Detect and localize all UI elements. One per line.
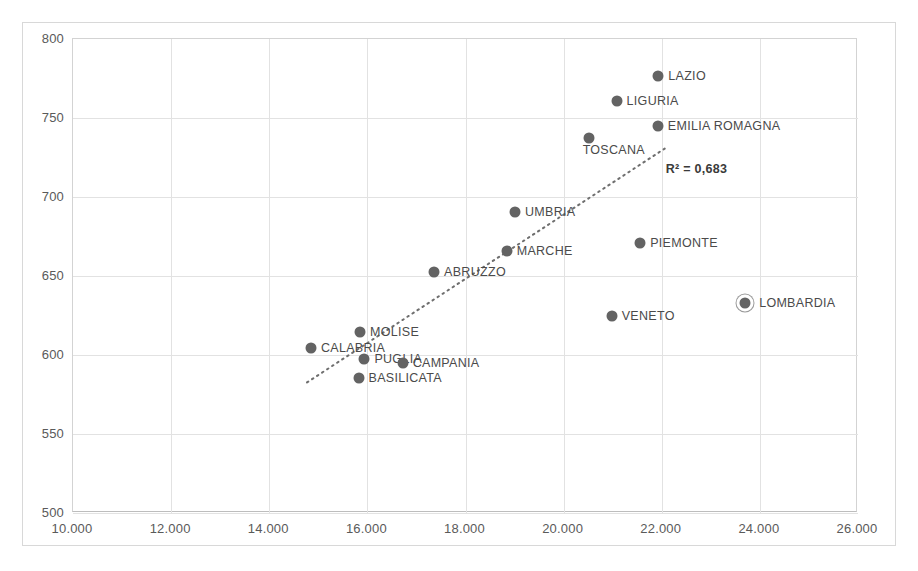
data-point-label: PIEMONTE [650, 236, 718, 250]
y-tick-label: 800 [16, 31, 64, 46]
gridline-vertical [171, 39, 172, 513]
x-tick-label: 16.000 [346, 521, 387, 536]
data-point[interactable] [354, 326, 365, 337]
scatter-chart: 500550600650700750800 10.00012.00014.000… [0, 0, 918, 571]
data-point-label: ABRUZZO [444, 265, 506, 279]
data-point[interactable] [353, 372, 364, 383]
data-point[interactable] [305, 342, 316, 353]
gridline-vertical [564, 39, 565, 513]
data-point-label: EMILIA ROMAGNA [668, 119, 781, 133]
x-tick-label: 12.000 [150, 521, 191, 536]
y-tick-label: 750 [16, 110, 64, 125]
data-point[interactable] [359, 353, 370, 364]
data-point-label: UMBRIA [525, 205, 575, 219]
data-point[interactable] [635, 238, 646, 249]
data-point-label: LIGURIA [627, 94, 679, 108]
data-point[interactable] [652, 121, 663, 132]
y-tick-label: 600 [16, 347, 64, 362]
data-point-label: MARCHE [517, 244, 573, 258]
data-point[interactable] [583, 132, 594, 143]
y-tick-label: 700 [16, 189, 64, 204]
data-point[interactable] [606, 311, 617, 322]
data-point[interactable] [510, 206, 521, 217]
data-point[interactable] [397, 358, 408, 369]
data-point-label: BASILICATA [369, 371, 442, 385]
data-point-label: LAZIO [668, 69, 706, 83]
data-point-label: CAMPANIA [413, 356, 480, 370]
gridline-horizontal [73, 513, 858, 514]
y-axis-tick-labels: 500550600650700750800 [14, 38, 64, 512]
x-tick-label: 14.000 [248, 521, 289, 536]
x-tick-label: 26.000 [837, 521, 878, 536]
data-point-label: MOLISE [370, 325, 419, 339]
data-point[interactable] [501, 246, 512, 257]
y-tick-label: 550 [16, 426, 64, 441]
x-tick-label: 18.000 [444, 521, 485, 536]
y-tick-label: 650 [16, 268, 64, 283]
data-point-label: LOMBARDIA [759, 296, 835, 310]
gridline-vertical [367, 39, 368, 513]
x-tick-label: 20.000 [542, 521, 583, 536]
gridline-vertical [760, 39, 761, 513]
x-tick-label: 22.000 [640, 521, 681, 536]
x-axis-tick-labels: 10.00012.00014.00016.00018.00020.00022.0… [72, 521, 857, 543]
gridline-vertical [662, 39, 663, 513]
x-tick-label: 10.000 [52, 521, 93, 536]
x-tick-label: 24.000 [738, 521, 779, 536]
data-point-label: VENETO [622, 309, 675, 323]
data-point[interactable] [429, 266, 440, 277]
data-point[interactable] [653, 70, 664, 81]
data-point[interactable] [611, 96, 622, 107]
gridline-vertical [269, 39, 270, 513]
y-tick-label: 500 [16, 505, 64, 520]
data-point-label: TOSCANA [583, 143, 645, 157]
r-squared-annotation: R² = 0,683 [666, 162, 728, 176]
data-point[interactable] [740, 298, 751, 309]
